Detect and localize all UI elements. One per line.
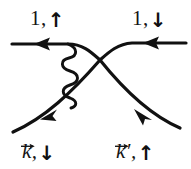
incoming-particle-k-line [13,60,100,132]
incoming-particle-1-line [12,44,100,60]
label-bottom-right-comma: , [131,139,137,163]
label-top-left-text: 1, [30,8,47,29]
vector-arrow-overbar-icon [115,142,129,148]
label-bottom-right-text: k ′, [116,139,137,162]
label-outgoing-particle-1: 1, ↓ [132,8,167,29]
feynman-diagram-figure: 1, ↑ 1, ↓ k , ↓ k [0,0,191,169]
label-bottom-left-text: k , [22,139,38,162]
vector-k-glyph: k [22,141,32,162]
vector-arrow-overbar-icon [21,142,35,148]
label-outgoing-particle-k-prime: k ′, ↑ [116,139,154,162]
spin-up-arrow: ↑ [138,143,155,163]
spin-up-arrow: ↑ [48,10,65,30]
vector-k-prime-glyph: k [116,141,126,162]
label-incoming-particle-k: k , ↓ [22,139,55,162]
spin-down-arrow: ↓ [150,10,167,30]
spin-down-arrow: ↓ [39,143,56,163]
label-incoming-particle-1: 1, ↑ [30,8,65,29]
label-top-right-text: 1, [132,8,149,29]
outgoing-particle-1-line [100,43,186,60]
